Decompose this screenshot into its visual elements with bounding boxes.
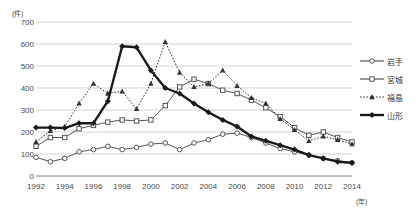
data-point-marker	[48, 135, 52, 139]
x-axis-tick: 2000	[142, 182, 160, 191]
data-point-marker	[163, 103, 167, 107]
series-line	[36, 133, 352, 163]
data-point-marker	[177, 70, 182, 75]
data-point-marker	[77, 150, 82, 155]
data-point-marker	[48, 159, 53, 164]
data-point-marker	[76, 101, 81, 106]
data-point-marker	[221, 88, 225, 92]
x-axis-tick: 2002	[171, 182, 189, 191]
x-axis-tick: 1996	[85, 182, 103, 191]
data-point-marker	[62, 156, 67, 161]
data-point-marker	[91, 81, 96, 86]
data-point-marker	[263, 101, 268, 106]
legend-label: 福島	[387, 92, 403, 103]
legend-label: 山形	[387, 110, 403, 121]
data-point-marker	[349, 160, 355, 166]
data-point-marker	[119, 88, 124, 93]
legend-swatch-filled-triangle-icon	[360, 91, 384, 103]
chart-screenshot: (件) (年) 0100200300400500600700 199219941…	[0, 0, 416, 215]
data-point-marker	[306, 138, 311, 143]
data-point-marker	[119, 43, 125, 49]
data-point-marker	[163, 39, 168, 44]
legend-swatch-open-circle-icon	[360, 55, 384, 67]
data-point-marker	[206, 137, 211, 142]
legend-item-宮城[interactable]: 宮城	[360, 70, 416, 88]
legend-label: 宮城	[387, 74, 403, 85]
data-point-marker	[34, 144, 38, 148]
legend-item-岩手[interactable]: 岩手	[360, 52, 416, 70]
series-山形	[33, 43, 355, 166]
legend-swatch-filled-diamond-icon	[360, 109, 384, 121]
x-axis-tick: 1998	[113, 182, 131, 191]
legend-item-山形[interactable]: 山形	[360, 106, 416, 124]
data-point-marker	[106, 144, 111, 149]
y-axis-tick: 100	[4, 150, 34, 159]
x-axis-tick: 2008	[257, 182, 275, 191]
data-point-marker	[163, 141, 168, 146]
data-point-marker	[264, 106, 268, 110]
data-point-marker	[307, 133, 311, 137]
data-point-marker	[106, 120, 110, 124]
data-point-marker	[134, 145, 139, 150]
x-axis-unit-label: (年)	[356, 196, 367, 206]
x-axis-tick: 2010	[286, 182, 304, 191]
data-point-marker	[47, 125, 53, 131]
x-axis-tick: 2006	[228, 182, 246, 191]
data-point-marker	[149, 118, 153, 122]
data-point-marker	[76, 120, 82, 126]
x-axis-tick: 1994	[56, 182, 74, 191]
y-axis-tick: 300	[4, 106, 34, 115]
legend-item-福島[interactable]: 福島	[360, 88, 416, 106]
y-axis-tick: 600	[4, 40, 34, 49]
data-point-marker	[91, 147, 96, 152]
data-point-marker	[77, 127, 81, 131]
data-point-marker	[320, 155, 326, 161]
data-point-marker	[370, 59, 375, 64]
data-point-marker	[63, 135, 67, 139]
data-point-marker	[369, 112, 375, 118]
data-point-marker	[220, 68, 225, 73]
x-axis-tick-labels: 1992199419961998200020022004200620082010…	[36, 182, 352, 196]
series-lines	[36, 22, 352, 176]
data-point-marker	[148, 81, 153, 86]
data-point-marker	[177, 147, 182, 152]
data-point-marker	[235, 131, 240, 136]
data-point-marker	[192, 141, 197, 146]
data-point-marker	[220, 132, 225, 137]
x-axis-tick: 2014	[343, 182, 361, 191]
data-point-marker	[120, 118, 124, 122]
data-point-marker	[306, 152, 312, 158]
data-point-marker	[34, 155, 39, 160]
data-point-marker	[234, 83, 239, 88]
chart-legend: 岩手宮城福島山形	[360, 52, 416, 124]
data-point-marker	[235, 91, 239, 95]
series-line	[36, 79, 352, 146]
data-point-marker	[149, 142, 154, 147]
x-axis-tick: 2004	[199, 182, 217, 191]
plot-area	[36, 22, 352, 176]
y-axis-unit-label: (件)	[12, 8, 23, 18]
y-axis-tick: 400	[4, 84, 34, 93]
data-point-marker	[33, 139, 38, 144]
data-point-marker	[120, 147, 125, 152]
legend-label: 岩手	[387, 56, 403, 67]
y-axis-tick: 200	[4, 128, 34, 137]
legend-swatch-open-square-icon	[360, 73, 384, 85]
x-axis-tick: 2012	[314, 182, 332, 191]
data-point-marker	[177, 85, 181, 89]
data-point-marker	[370, 77, 374, 81]
data-point-marker	[134, 106, 139, 111]
y-axis-tick: 700	[4, 18, 34, 27]
y-axis-tick: 500	[4, 62, 34, 71]
data-point-marker	[62, 125, 68, 131]
data-point-marker	[192, 77, 196, 81]
y-axis-tick: 0	[4, 172, 34, 181]
y-axis-tick-labels: 0100200300400500600700	[0, 22, 34, 176]
series-line	[36, 42, 352, 144]
x-axis-tick: 1992	[27, 182, 45, 191]
data-point-marker	[134, 119, 138, 123]
